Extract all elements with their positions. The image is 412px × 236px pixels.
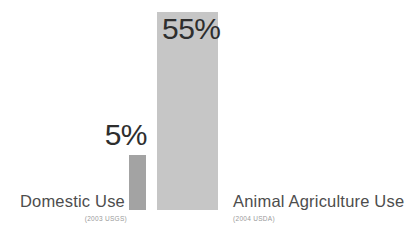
water-use-bar-chart: 5% 55% Domestic Use (2003 USGS) Animal A… bbox=[0, 0, 412, 236]
category-label-domestic-use: Domestic Use bbox=[20, 192, 125, 210]
value-label-domestic-use: 5% bbox=[105, 119, 147, 151]
value-label-animal-agriculture-use: 55% bbox=[162, 13, 221, 45]
category-label-animal-agriculture-use: Animal Agriculture Use bbox=[233, 192, 404, 210]
source-label-animal-agriculture-use: (2004 USDA) bbox=[233, 215, 275, 222]
source-label-domestic-use: (2003 USGS) bbox=[85, 215, 127, 222]
bar-domestic-use bbox=[129, 155, 146, 210]
